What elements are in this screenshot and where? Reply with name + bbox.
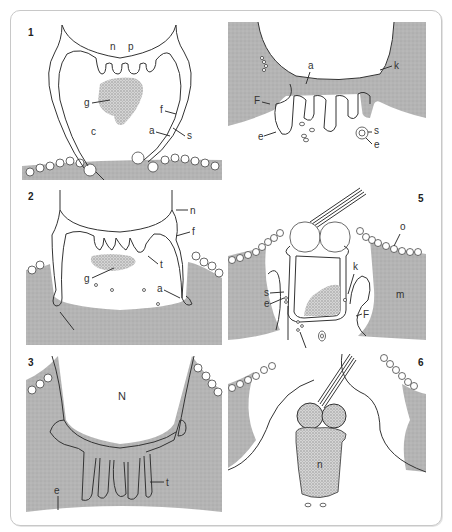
panel-1-number: 1 [28, 27, 34, 38]
panel-1-wall-right-outer [148, 25, 191, 162]
panel-3: 3 N t e [26, 356, 222, 512]
panel-2-tissue [26, 262, 222, 345]
panel-1-folds [67, 51, 170, 74]
panel-6-surface-cells [229, 355, 418, 392]
panel-2-wall-left [52, 190, 62, 306]
label-e: e [264, 298, 270, 309]
label-n: n [317, 459, 323, 470]
label-e: e [54, 485, 60, 496]
panel-2-vesicles [95, 284, 160, 306]
label-f: f [160, 104, 163, 115]
panel-6-tissue-right [402, 384, 426, 472]
panel-6-number: 6 [418, 357, 424, 368]
panel-6-flagella [318, 354, 356, 408]
panel-5-basal-body-right [320, 222, 350, 252]
label-F: F [363, 309, 369, 320]
panel-6: 6 n [228, 354, 426, 507]
panel-2-folds [66, 231, 154, 252]
panel-4-vesicles [300, 122, 369, 142]
label-c: c [91, 126, 96, 137]
label-g: g [84, 273, 90, 284]
panel-3-number: 3 [28, 357, 34, 368]
panel-1-top-membrane [62, 25, 176, 58]
label-e: e [258, 131, 264, 142]
label-a: a [149, 125, 155, 136]
panel-4-tissue [228, 22, 426, 126]
panel-2: 2 n f t g a [26, 190, 223, 345]
panel-5-number: 5 [418, 193, 424, 204]
panel-5-arrow-bottom [300, 332, 306, 348]
panel-1: 1 n p g c f a [22, 25, 222, 180]
label-a: a [157, 283, 163, 294]
label-a: a [308, 60, 314, 71]
label-o: o [400, 221, 406, 232]
panel-5-basal-body-left [290, 222, 320, 252]
panel-5-tissue-left [228, 248, 280, 340]
label-t: t [166, 477, 169, 488]
panel-1-wall-left-outer [49, 25, 84, 168]
label-s: s [187, 130, 192, 141]
label-n: n [190, 205, 196, 216]
figure-canvas: 1 n p g c f a [0, 0, 452, 532]
panel-4: 4 a k F e s e [228, 22, 426, 150]
label-F: F [254, 95, 260, 106]
panel-6-basal-body-right [322, 404, 346, 428]
label-m: m [396, 289, 404, 300]
panel-6-basal-body-left [297, 403, 323, 429]
label-e: e [374, 139, 380, 150]
panel-6-vesicle [305, 503, 311, 507]
label-t: t [160, 259, 163, 270]
panel-2-top-membrane [60, 210, 172, 232]
panel-6-vesicle [320, 503, 326, 507]
panel-5: 5 o k [228, 188, 426, 348]
label-N: N [118, 390, 126, 402]
label-s: s [264, 287, 269, 298]
panel-2-number: 2 [28, 191, 34, 202]
label-f: f [192, 226, 195, 237]
label-g: g [84, 97, 90, 108]
panel-1-wall-left-inner [59, 54, 88, 166]
label-p: p [128, 41, 134, 52]
label-n: n [110, 41, 116, 52]
panel-5-granule [304, 285, 340, 316]
label-k: k [353, 261, 359, 272]
panel-2-wall-left-inner [62, 234, 67, 298]
label-s: s [374, 125, 379, 136]
